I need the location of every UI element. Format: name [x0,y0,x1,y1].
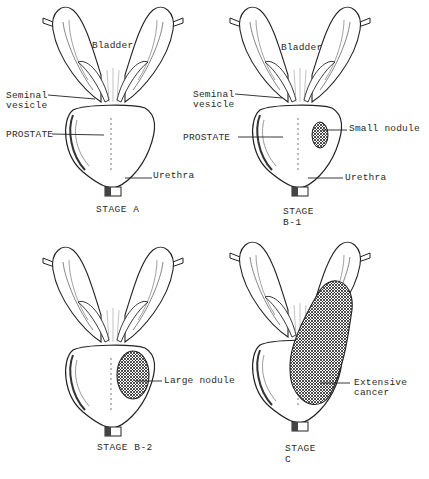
stage-b1-drawing [230,7,370,196]
panel-stage-c: Extensive cancer STAGE C [0,0,214,239]
label-large-nodule: Large nodule [164,376,235,386]
stage-c-drawing [230,242,370,431]
label-bladder: Bladder [281,43,322,53]
stage-b2-drawing [43,247,183,436]
label-extensive-cancer: Extensive cancer [354,378,407,398]
stage-label: STAGE B-2 [97,442,153,453]
stage-label: STAGE C [285,443,316,465]
label-small-nodule: Small nodule [349,124,420,134]
label-urethra: Urethra [345,173,386,183]
stage-label: STAGE B-1 [283,206,314,228]
